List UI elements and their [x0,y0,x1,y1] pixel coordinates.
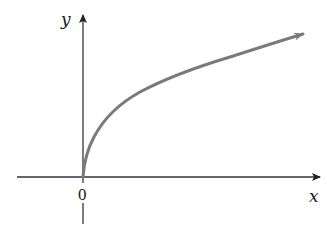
sqrt-curve [83,34,303,177]
origin-label: 0 [78,185,87,204]
graph: y 0 x [0,0,327,234]
y-axis-label: y [60,9,71,29]
x-axis-label: x [309,186,319,206]
